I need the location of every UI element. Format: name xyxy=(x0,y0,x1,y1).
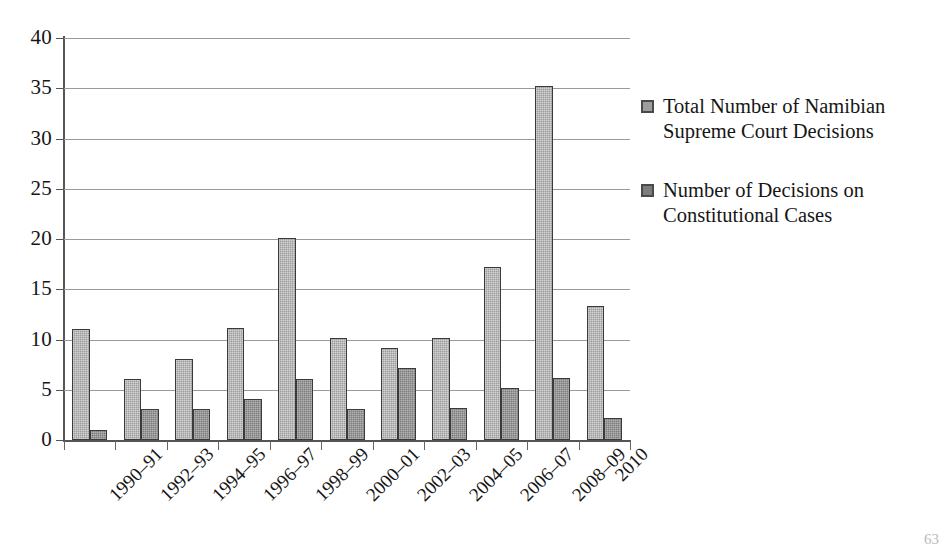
x-axis: 1990–911992–931994–951996–971998–992000–… xyxy=(64,444,664,550)
bar-constitutional-decisions xyxy=(501,388,519,440)
y-tick-label: 40 xyxy=(12,27,52,48)
y-tickmark xyxy=(56,239,64,240)
y-tickmark xyxy=(56,390,64,391)
x-tick-label: 2004–05 xyxy=(465,444,526,505)
bar-group xyxy=(278,38,313,440)
bar-group xyxy=(535,38,570,440)
bar-total-decisions xyxy=(587,306,605,440)
chart-legend: Total Number of Namibian Supreme Court D… xyxy=(641,94,941,262)
bar-group xyxy=(432,38,467,440)
bar-group xyxy=(175,38,210,440)
y-tickmark xyxy=(56,289,64,290)
y-tickmark xyxy=(56,88,64,89)
bar-constitutional-decisions xyxy=(141,409,159,440)
y-axis: 0510152025303540 xyxy=(0,0,52,470)
legend-label: Total Number of Namibian Supreme Court D… xyxy=(663,94,931,144)
bar-constitutional-decisions xyxy=(347,409,365,440)
bar-chart-figure: 0510152025303540 1990–911992–931994–9519… xyxy=(0,0,945,550)
bar-constitutional-decisions xyxy=(244,399,262,440)
y-tick-label: 5 xyxy=(12,379,52,400)
x-tick-label: 1998–99 xyxy=(311,444,372,505)
bar-constitutional-decisions xyxy=(90,430,108,440)
legend-label: Number of Decisions on Constitutional Ca… xyxy=(663,178,931,228)
legend-swatch-icon xyxy=(641,184,654,197)
bar-constitutional-decisions xyxy=(604,418,622,440)
y-tick-label: 0 xyxy=(12,429,52,450)
y-tickmark xyxy=(56,340,64,341)
bar-group xyxy=(124,38,159,440)
bar-group xyxy=(330,38,365,440)
x-tick-label: 1994–95 xyxy=(208,444,269,505)
y-tick-label: 20 xyxy=(12,228,52,249)
bar-total-decisions xyxy=(535,86,553,440)
bar-total-decisions xyxy=(124,379,142,440)
x-tick-label: 2000–01 xyxy=(362,444,423,505)
legend-swatch-icon xyxy=(641,100,654,113)
y-tickmark xyxy=(56,440,64,441)
x-tick-label: 1996–97 xyxy=(260,444,321,505)
legend-item: Number of Decisions on Constitutional Ca… xyxy=(641,178,941,228)
y-tickmark xyxy=(56,189,64,190)
bar-group xyxy=(484,38,519,440)
x-tick-label: 2006–07 xyxy=(517,444,578,505)
x-tick-label: 2002–03 xyxy=(414,444,475,505)
bar-total-decisions xyxy=(72,329,90,440)
y-tickmark xyxy=(56,38,64,39)
bar-constitutional-decisions xyxy=(450,408,468,440)
y-tick-label: 30 xyxy=(12,128,52,149)
x-axis-line xyxy=(63,440,631,442)
bar-total-decisions xyxy=(484,267,502,440)
y-tickmark xyxy=(56,139,64,140)
bar-group xyxy=(227,38,262,440)
bar-total-decisions xyxy=(278,238,296,440)
x-tick-label: 1992–93 xyxy=(157,444,218,505)
bar-total-decisions xyxy=(227,328,245,440)
plot-area xyxy=(64,38,630,440)
legend-item: Total Number of Namibian Supreme Court D… xyxy=(641,94,941,144)
x-tick-label: 1990–91 xyxy=(105,444,166,505)
bar-constitutional-decisions xyxy=(553,378,571,440)
y-tick-label: 25 xyxy=(12,178,52,199)
bar-group xyxy=(381,38,416,440)
bar-constitutional-decisions xyxy=(193,409,211,440)
bar-group xyxy=(72,38,107,440)
bar-total-decisions xyxy=(432,338,450,441)
bar-constitutional-decisions xyxy=(398,368,416,440)
y-tick-label: 15 xyxy=(12,278,52,299)
page-number: 63 xyxy=(924,531,939,548)
y-tick-label: 10 xyxy=(12,329,52,350)
bar-group xyxy=(587,38,622,440)
bar-total-decisions xyxy=(381,348,399,440)
bar-total-decisions xyxy=(330,338,348,441)
bar-total-decisions xyxy=(175,359,193,440)
bar-constitutional-decisions xyxy=(296,379,314,440)
y-tick-label: 35 xyxy=(12,77,52,98)
